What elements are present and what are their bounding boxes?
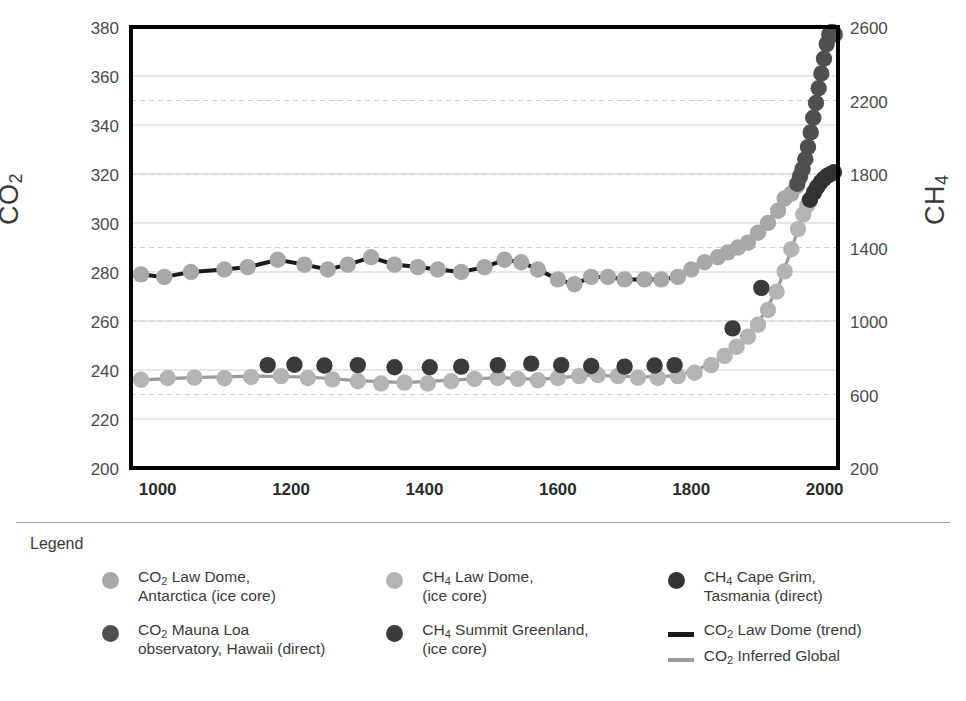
- legend-label: CH4 Law Dome, (ice core): [422, 568, 533, 605]
- data-point: [790, 221, 806, 237]
- legend-dot-icon: [386, 572, 403, 589]
- legend-entry[interactable]: CO2 Law Dome, Antarctica (ice core): [102, 568, 372, 605]
- legend-label: CH4 Cape Grim, Tasmania (direct): [704, 568, 823, 605]
- y-tick-label-right: 1800: [850, 166, 888, 185]
- data-point: [666, 357, 682, 373]
- legend-species-sub: 4: [445, 575, 451, 587]
- data-point: [646, 357, 662, 373]
- data-point: [240, 259, 256, 275]
- legend-entry[interactable]: CO2 Law Dome (trend): [668, 621, 966, 640]
- data-point: [186, 369, 202, 385]
- legend-divider: [16, 522, 950, 523]
- data-point: [583, 358, 599, 374]
- y-tick-label-left: 300: [91, 215, 119, 234]
- data-point: [566, 276, 582, 292]
- data-point: [724, 320, 740, 336]
- data-point: [422, 359, 438, 375]
- data-point: [324, 371, 340, 387]
- data-point: [636, 271, 652, 287]
- data-point: [340, 256, 356, 272]
- legend-entry[interactable]: CH4 Summit Greenland, (ice core): [386, 621, 652, 658]
- data-point: [373, 375, 389, 391]
- legend-dot-icon: [386, 625, 403, 642]
- legend-dot-icon: [668, 572, 685, 589]
- data-point: [816, 51, 832, 67]
- y-tick-label-left: 340: [91, 117, 119, 136]
- legend-swatch: [668, 568, 704, 589]
- legend-text: Law Dome (trend): [733, 621, 861, 638]
- legend-line-icon: [668, 658, 694, 662]
- data-point: [476, 259, 492, 275]
- legend-species: CH: [422, 568, 444, 585]
- y-tick-label-left: 220: [91, 411, 119, 430]
- legend-entry[interactable]: CO2 Mauna Loa observatory, Hawaii (direc…: [102, 621, 372, 658]
- data-point: [583, 269, 599, 285]
- y-tick-label-left: 360: [91, 68, 119, 87]
- data-point: [530, 261, 546, 277]
- data-point: [510, 371, 526, 387]
- data-point: [133, 266, 149, 282]
- x-tick-label: 1400: [406, 480, 444, 499]
- x-tick-label: 1800: [672, 480, 710, 499]
- legend-swatch: [386, 621, 422, 642]
- y-tick-label-right: 1400: [850, 240, 888, 259]
- chart-container: 2002202402602803003203403603802006001000…: [0, 0, 966, 505]
- data-point: [270, 252, 286, 268]
- data-point: [776, 263, 792, 279]
- data-point: [430, 261, 446, 277]
- legend-species: CO: [704, 647, 727, 664]
- data-point: [420, 375, 436, 391]
- legend-swatch: [668, 621, 704, 637]
- data-point: [550, 271, 566, 287]
- data-point: [453, 264, 469, 280]
- legend-dot-icon: [102, 572, 119, 589]
- data-point: [316, 357, 332, 373]
- data-point: [320, 261, 336, 277]
- data-point: [300, 370, 316, 386]
- data-point: [350, 357, 366, 373]
- legend-species-sub: 2: [727, 628, 733, 640]
- data-point: [616, 358, 632, 374]
- legend-species: CH: [422, 621, 444, 638]
- legend-column: CH4 Cape Grim, Tasmania (direct)CO2 Law …: [652, 568, 966, 674]
- legend-species-sub: 2: [727, 654, 733, 666]
- data-point: [216, 370, 232, 386]
- data-point: [273, 368, 289, 384]
- legend-entry[interactable]: CO2 Inferred Global: [668, 647, 966, 666]
- y-tick-label-right: 2200: [850, 93, 888, 112]
- left-axis-title-text: CO: [0, 184, 24, 226]
- y-tick-label-right: 2600: [850, 19, 888, 38]
- data-point: [156, 269, 172, 285]
- legend-column: CH4 Law Dome, (ice core)CH4 Summit Green…: [372, 568, 652, 674]
- data-point: [811, 80, 827, 96]
- data-point: [443, 373, 459, 389]
- legend-swatch: [668, 647, 704, 662]
- y-tick-label-right: 600: [850, 387, 878, 406]
- data-point: [703, 357, 719, 373]
- y-tick-label-left: 380: [91, 19, 119, 38]
- legend-swatch: [102, 568, 138, 589]
- legend-species: CO: [138, 621, 161, 638]
- legend-entry[interactable]: CH4 Law Dome, (ice core): [386, 568, 652, 605]
- data-point: [410, 259, 426, 275]
- legend-species: CO: [704, 621, 727, 638]
- x-tick-label: 2000: [806, 480, 844, 499]
- chart-svg: 2002202402602803003203403603802006001000…: [0, 0, 966, 505]
- data-point: [753, 280, 769, 296]
- data-point: [805, 110, 821, 126]
- data-point: [260, 357, 276, 373]
- data-point: [386, 256, 402, 272]
- legend-entry[interactable]: CH4 Cape Grim, Tasmania (direct): [668, 568, 966, 605]
- data-point: [530, 372, 546, 388]
- x-tick-label: 1200: [272, 480, 310, 499]
- left-axis-title-sub: 2: [6, 173, 26, 184]
- data-point: [630, 369, 646, 385]
- legend-line-icon: [668, 632, 694, 637]
- data-point: [760, 302, 776, 318]
- data-point: [453, 358, 469, 374]
- data-point: [750, 317, 766, 333]
- data-point: [183, 264, 199, 280]
- data-point: [783, 241, 799, 257]
- y-tick-label-left: 260: [91, 313, 119, 332]
- data-point: [296, 256, 312, 272]
